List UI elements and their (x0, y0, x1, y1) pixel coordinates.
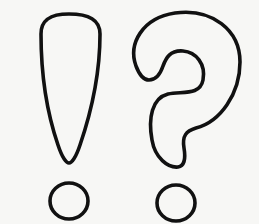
exclamation-dot-icon (50, 183, 88, 219)
exclamation-body-icon (41, 14, 100, 163)
symbols-drawing (0, 0, 259, 224)
illustration: ! ? (0, 0, 259, 224)
question-dot-icon (157, 185, 195, 221)
question-body-icon (134, 12, 240, 167)
